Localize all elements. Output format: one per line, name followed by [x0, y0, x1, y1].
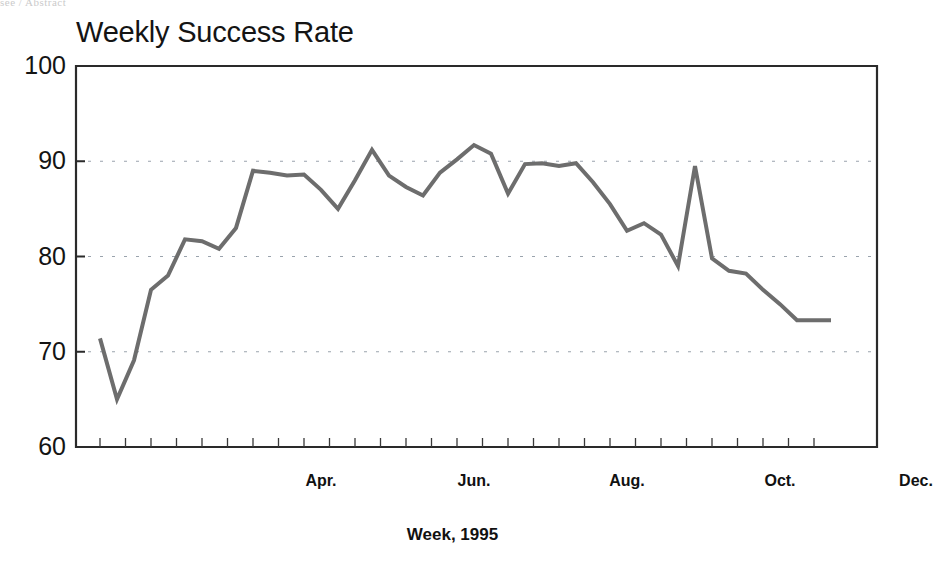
y-tick-label-70: 70: [4, 339, 66, 364]
y-tick-label-80: 80: [4, 244, 66, 269]
x-tick-label-aug: Aug.: [609, 472, 645, 490]
x-tick-label-dec: Dec.: [899, 472, 933, 490]
data-series-layer: [100, 145, 831, 399]
gridlines-layer: [76, 161, 877, 352]
x-tick-label-apr: Apr.: [305, 472, 336, 490]
y-tick-label-60: 60: [4, 434, 66, 459]
x-axis-title: Week, 1995: [0, 525, 905, 545]
y-tick-label-90: 90: [4, 148, 66, 173]
x-tick-label-oct: Oct.: [764, 472, 795, 490]
series-line-weekly-success-rate: [100, 145, 831, 399]
x-tick-label-jun: Jun.: [458, 472, 491, 490]
y-tick-label-100: 100: [4, 53, 66, 78]
